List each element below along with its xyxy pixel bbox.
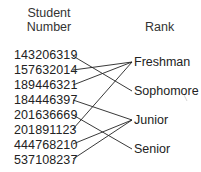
link-537108237-junior (73, 120, 132, 159)
link-189446321-freshman (73, 62, 132, 85)
link-444768210-junior (73, 120, 132, 144)
mapping-lines (0, 0, 201, 172)
link-157632014-freshman (73, 62, 132, 70)
link-184446397-junior (73, 100, 132, 120)
scan-speck (184, 95, 187, 101)
link-201891123-freshman (73, 62, 132, 129)
